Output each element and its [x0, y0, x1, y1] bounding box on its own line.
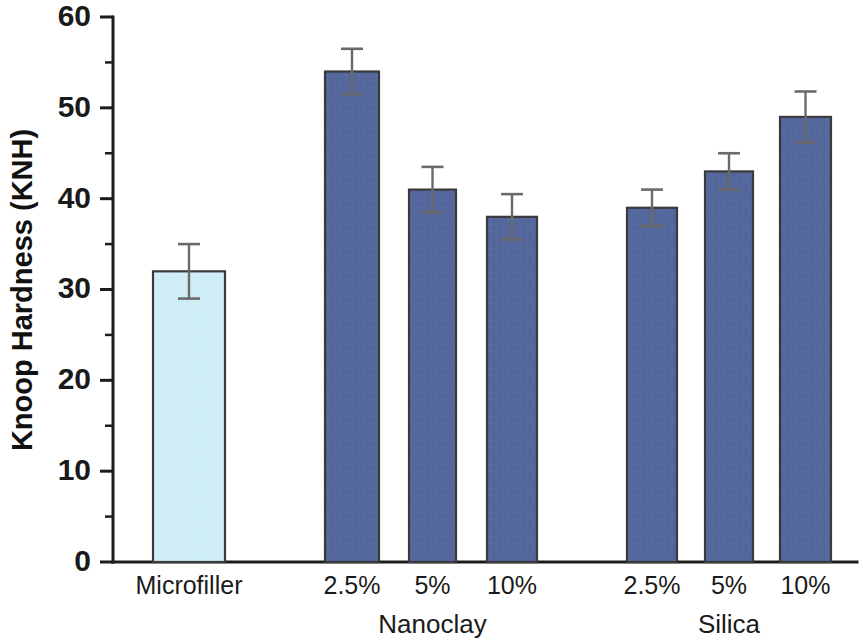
y-tick-label: 60	[58, 0, 91, 32]
y-axis-title: Knoop Hardness (KNH)	[6, 129, 38, 451]
bar-group	[409, 167, 456, 562]
y-tick-label: 0	[74, 544, 91, 577]
bar-nanoclay-5pct	[409, 190, 456, 562]
bar-group	[627, 190, 677, 562]
bar-group	[705, 153, 753, 562]
bar-microfiller	[153, 271, 225, 562]
x-tick-label: 2.5%	[324, 571, 381, 599]
bar-group	[487, 194, 537, 562]
y-tick-label: 40	[58, 181, 91, 214]
bar-silica-2-5pct	[627, 208, 677, 562]
x-tick-label: 5%	[711, 571, 747, 599]
y-axis-ticks	[100, 17, 113, 562]
x-tick-label: 10%	[780, 571, 830, 599]
knoop-hardness-bar-chart: Knoop Hardness (KNH) 0102030405060 Micro…	[0, 0, 863, 643]
x-tick-label: Microfiller	[136, 571, 243, 599]
bar-group	[325, 49, 379, 562]
y-tick-label: 50	[58, 90, 91, 123]
x-tick-label: 2.5%	[624, 571, 681, 599]
x-tick-label: 10%	[487, 571, 537, 599]
bar-group	[153, 244, 225, 562]
y-axis-tick-labels: 0102030405060	[58, 0, 91, 577]
group-labels: NanoclaySilica	[378, 609, 760, 639]
y-tick-label: 20	[58, 362, 91, 395]
x-axis-tick-labels: Microfiller2.5%5%10%2.5%5%10%	[136, 571, 831, 599]
group-label: Silica	[698, 609, 761, 639]
bars-layer	[153, 49, 831, 562]
y-tick-label: 10	[58, 453, 91, 486]
y-tick-label: 30	[58, 271, 91, 304]
bar-silica-5pct	[705, 171, 753, 562]
y-axis-title-text: Knoop Hardness (KNH)	[6, 129, 38, 451]
bar-silica-10pct	[780, 117, 831, 562]
chart-svg: Knoop Hardness (KNH) 0102030405060 Micro…	[0, 0, 863, 643]
x-tick-label: 5%	[414, 571, 450, 599]
bar-nanoclay-2-5pct	[325, 72, 379, 563]
group-label: Nanoclay	[378, 609, 486, 639]
bar-group	[780, 91, 831, 562]
bar-nanoclay-10pct	[487, 217, 537, 562]
